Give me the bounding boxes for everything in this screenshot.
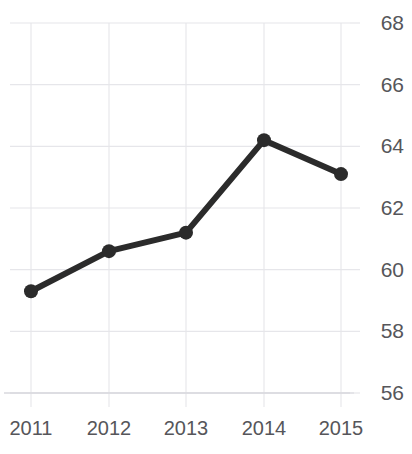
x-axis-label-2014: 2014: [224, 418, 304, 438]
data-point-2011: [24, 284, 38, 298]
y-axis-label-64: 64: [360, 135, 404, 156]
x-axis-label-2015: 2015: [301, 418, 381, 438]
horizontal-gridlines: [10, 23, 350, 393]
x-axis-label-2011: 2011: [0, 418, 71, 438]
y-axis-label-68: 68: [360, 12, 404, 33]
data-point-2014: [257, 133, 271, 147]
y-axis-label-56: 56: [360, 382, 404, 403]
y-axis-label-66: 66: [360, 74, 404, 95]
y-axis-tick-marks: [350, 23, 360, 393]
data-point-2013: [179, 226, 193, 240]
x-axis-label-2013: 2013: [146, 418, 226, 438]
line-chart: 56586062646668 20112012201320142015: [0, 0, 412, 454]
x-axis-label-2012: 2012: [69, 418, 149, 438]
y-axis-label-58: 58: [360, 320, 404, 341]
chart-plot-area: [0, 0, 412, 454]
data-point-2015: [334, 167, 348, 181]
vertical-gridlines: [31, 23, 341, 407]
y-axis-label-62: 62: [360, 197, 404, 218]
data-point-2012: [102, 244, 116, 258]
y-axis-label-60: 60: [360, 259, 404, 280]
